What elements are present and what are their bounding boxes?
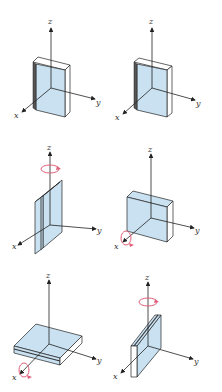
slab-diagram-e: z y x	[0, 260, 111, 388]
slab-side-edge	[65, 65, 70, 117]
slab-diagram-f: z y x	[111, 260, 222, 388]
slab-side-edge	[167, 66, 172, 117]
x-label: x	[14, 111, 19, 120]
x-label: x	[12, 373, 17, 382]
panel-c: z y x	[0, 130, 111, 258]
z-label: z	[47, 17, 53, 26]
y-label: y	[96, 356, 102, 365]
y-label: y	[193, 357, 199, 366]
rotation-arrow-x-icon	[121, 231, 131, 245]
x-label: x	[114, 242, 119, 251]
z-label: z	[148, 17, 154, 26]
y-label: y	[194, 226, 200, 235]
slab-side-edge	[167, 201, 173, 242]
rotation-arrowhead-icon	[129, 243, 134, 247]
slab-diagram-d: z y x	[111, 130, 222, 258]
y-label: y	[96, 226, 102, 235]
panel-d: z y x	[111, 130, 222, 258]
z-label: z	[147, 145, 153, 154]
y-label: y	[195, 99, 201, 108]
panel-a: z y x	[0, 0, 111, 128]
panel-b: z y x	[111, 0, 222, 128]
slab-face	[43, 180, 62, 248]
slab-diagram-c: z y x	[0, 130, 111, 258]
x-label: x	[12, 242, 17, 251]
y-label: y	[95, 98, 101, 107]
rotation-arrowhead-icon	[27, 375, 32, 379]
x-label: x	[115, 113, 120, 122]
panel-f: z y x	[111, 260, 222, 388]
slab-front-face	[35, 196, 43, 254]
panel-e: z y x	[0, 260, 111, 388]
slab-front-edge	[131, 346, 137, 377]
slab-diagram-b: z y x	[111, 0, 222, 128]
z-label: z	[144, 273, 150, 282]
slab-diagram-a: z y x	[0, 0, 111, 128]
x-label: x	[113, 372, 118, 381]
z-label: z	[45, 271, 51, 280]
z-label: z	[46, 143, 52, 152]
